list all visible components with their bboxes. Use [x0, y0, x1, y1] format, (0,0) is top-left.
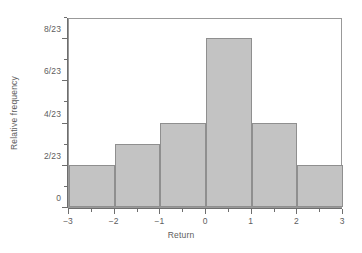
histogram-figure: 02/234/236/238/23 −3−2−10123 Relative fr…: [0, 0, 362, 253]
x-axis-title: Return: [0, 230, 362, 240]
x-axis-tick: [68, 209, 69, 214]
y-axis-tick-label: 0: [56, 193, 61, 203]
x-axis-minor-tick: [91, 209, 92, 212]
x-axis-tick-label: 1: [248, 216, 253, 226]
y-axis-minor-tick: [64, 101, 67, 102]
plot-area: [68, 18, 342, 208]
x-axis-tick-label: 3: [340, 216, 345, 226]
y-axis-minor-tick: [64, 59, 67, 60]
x-axis-tick: [205, 209, 206, 214]
x-axis-minor-tick: [274, 209, 275, 212]
x-axis-tick-label: −1: [154, 216, 164, 226]
y-axis-minor-tick: [64, 144, 67, 145]
y-axis-tick: [62, 80, 67, 81]
y-axis-tick: [62, 123, 67, 124]
x-axis-tick-label: −2: [109, 216, 119, 226]
y-axis-minor-tick: [64, 17, 67, 18]
histogram-bar: [115, 144, 161, 207]
x-axis-tick: [114, 209, 115, 214]
bar-series: [69, 19, 341, 207]
y-axis-tick-label: 2/23: [44, 151, 61, 161]
x-axis-minor-tick: [228, 209, 229, 212]
histogram-bar: [206, 38, 252, 207]
y-axis-tick-label: 6/23: [44, 66, 61, 76]
x-axis-minor-tick: [319, 209, 320, 212]
x-axis-tick-label: 0: [203, 216, 208, 226]
x-axis-tick: [342, 209, 343, 214]
y-axis-tick-label: 4/23: [44, 109, 61, 119]
histogram-bar: [297, 165, 343, 207]
x-axis-tick-label: −3: [63, 216, 73, 226]
y-axis-title: Relative frequency: [9, 76, 19, 150]
y-axis-tick-label: 8/23: [44, 24, 61, 34]
x-axis-tick: [296, 209, 297, 214]
y-axis-minor-tick: [64, 186, 67, 187]
histogram-bar: [252, 123, 298, 207]
y-axis-tick: [62, 207, 67, 208]
histogram-bar: [160, 123, 206, 207]
x-axis-tick: [251, 209, 252, 214]
x-axis-tick: [159, 209, 160, 214]
y-axis: 02/234/236/238/23: [67, 18, 68, 208]
histogram-bar: [69, 165, 115, 207]
x-axis-minor-tick: [137, 209, 138, 212]
y-axis-tick: [62, 165, 67, 166]
x-axis: −3−2−10123: [68, 208, 342, 209]
y-axis-tick: [62, 38, 67, 39]
x-axis-tick-label: 2: [294, 216, 299, 226]
x-axis-minor-tick: [182, 209, 183, 212]
